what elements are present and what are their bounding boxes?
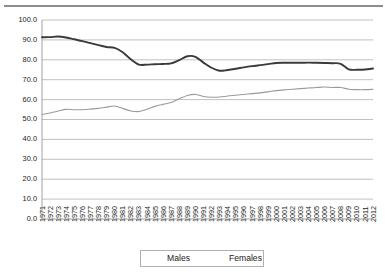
series-line-females	[42, 87, 373, 114]
y-tick-label: 30.0	[23, 154, 37, 163]
legend-label-females: Females	[229, 254, 262, 263]
y-tick-label: 90.0	[23, 35, 37, 44]
y-tick-label: 100.0	[19, 15, 38, 24]
y-tick-label: 10.0	[23, 194, 37, 203]
y-tick-label: 70.0	[23, 75, 37, 84]
y-tick-label: 20.0	[23, 174, 37, 183]
series-line-males	[42, 37, 373, 71]
y-tick-label: 0.0	[27, 214, 37, 223]
x-tick-label: 2012	[369, 206, 378, 222]
legend-entry-males: Males	[142, 254, 190, 263]
y-tick-label: 50.0	[23, 114, 37, 123]
figure: 100.090.080.070.060.050.040.030.020.010.…	[0, 0, 387, 280]
legend-entry-females: Females	[204, 254, 262, 263]
x-axis-tick-labels: 1971197219731974197519761977197819791980…	[38, 206, 378, 222]
line-chart: 100.090.080.070.060.050.040.030.020.010.…	[0, 0, 387, 262]
y-tick-label: 60.0	[23, 95, 37, 104]
y-axis-tick-labels: 100.090.080.070.060.050.040.030.020.010.…	[19, 15, 38, 223]
y-tick-label: 40.0	[23, 134, 37, 143]
chart-legend: Males Females	[140, 250, 264, 267]
y-tick-label: 80.0	[23, 55, 37, 64]
series-group	[42, 37, 373, 115]
legend-label-males: Males	[167, 254, 190, 263]
